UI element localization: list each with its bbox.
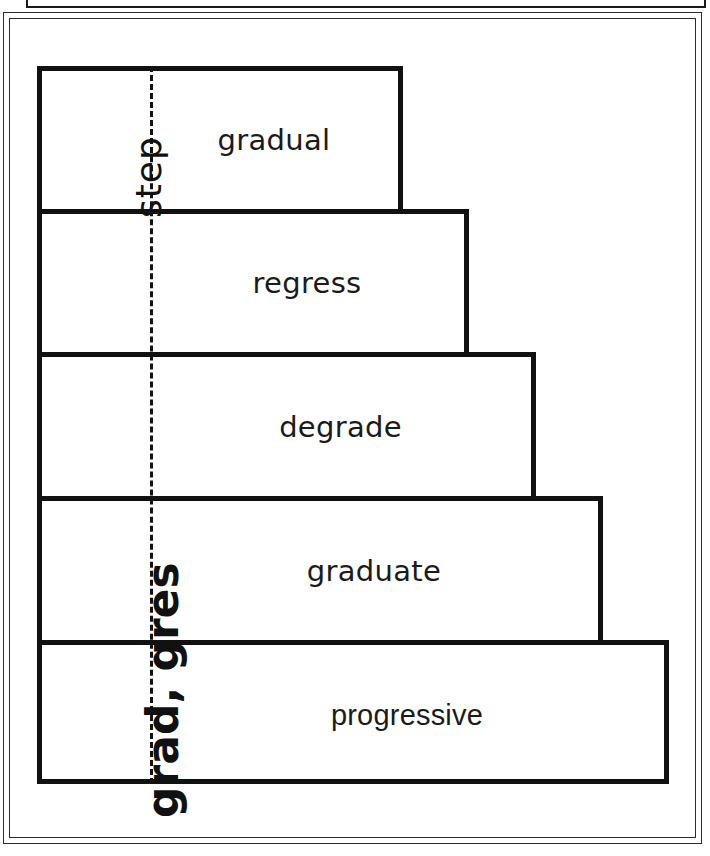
root-staircase-diagram: gradual regress degrade graduate progres… <box>37 66 669 784</box>
staircase-step-4[interactable]: graduate <box>37 496 603 640</box>
step-word-2: regress <box>150 269 464 298</box>
step-word-1: gradual <box>150 126 398 155</box>
staircase-step-2[interactable]: regress <box>37 209 469 352</box>
step-word-4: graduate <box>150 556 598 585</box>
step-word-3: degrade <box>150 412 531 441</box>
staircase-step-1[interactable]: gradual <box>37 66 403 209</box>
worksheet-page: gradual regress degrade graduate progres… <box>0 0 710 856</box>
root-meaning-label: step <box>131 136 167 218</box>
staircase-step-5[interactable]: progressive <box>37 640 669 784</box>
staircase-step-3[interactable]: degrade <box>37 352 536 496</box>
previous-exercise-box-sliver <box>26 0 706 8</box>
root-name-label: grad, gres <box>141 562 185 818</box>
step-word-5: progressive <box>150 700 664 729</box>
